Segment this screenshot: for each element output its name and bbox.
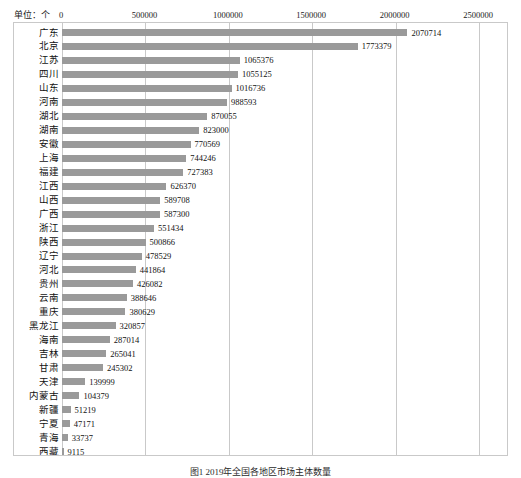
category-label: 山东 [14, 81, 59, 95]
bar[interactable] [62, 406, 71, 413]
bar-row[interactable]: 云南388646 [14, 291, 507, 305]
bar-value-label: 1065376 [244, 53, 274, 67]
category-label: 安徽 [14, 137, 59, 151]
bar-row[interactable]: 新疆51219 [14, 403, 507, 417]
category-label: 吉林 [14, 347, 59, 361]
category-label: 西藏 [14, 445, 59, 456]
bar-row[interactable]: 内蒙古104379 [14, 389, 507, 403]
bar-row[interactable]: 陕西500866 [14, 235, 507, 249]
bar[interactable] [62, 294, 127, 301]
bar-track: 245302 [62, 361, 507, 375]
bar-row[interactable]: 上海744246 [14, 151, 507, 165]
bar-row[interactable]: 贵州426082 [14, 277, 507, 291]
x-tick-label: 0 [59, 9, 63, 22]
x-tick-label: 2500000 [463, 9, 493, 22]
bar-row[interactable]: 黑龙江320857 [14, 319, 507, 333]
category-label: 云南 [14, 291, 59, 305]
bar-track: 770569 [62, 137, 507, 151]
bar-track: 500866 [62, 235, 507, 249]
x-axis-labels: 单位：个 05000001000000150000020000002500000 [0, 9, 521, 22]
bar-row[interactable]: 江苏1065376 [14, 53, 507, 67]
bar-row[interactable]: 天津139999 [14, 375, 507, 389]
bar-row[interactable]: 浙江551434 [14, 221, 507, 235]
bar-value-label: 1773379 [362, 39, 392, 53]
bar[interactable] [62, 155, 186, 162]
bar-value-label: 589708 [164, 193, 190, 207]
bar-value-label: 727383 [187, 165, 213, 179]
bar[interactable] [62, 169, 183, 176]
bar-row[interactable]: 宁夏47171 [14, 417, 507, 431]
bar[interactable] [62, 225, 154, 232]
bar[interactable] [62, 336, 110, 343]
bar[interactable] [62, 141, 191, 148]
bar-track: 870055 [62, 109, 507, 123]
bar-value-label: 2070714 [411, 26, 441, 40]
bar-track: 988593 [62, 95, 507, 109]
bar-row[interactable]: 西藏9115 [14, 445, 507, 456]
bar[interactable] [62, 420, 70, 427]
bar-row[interactable]: 海南287014 [14, 333, 507, 347]
plot-area: 广东2070714北京1773379江苏1065376四川1055125山东10… [13, 22, 508, 456]
bar-track: 9115 [62, 445, 507, 456]
bar-value-label: 551434 [158, 221, 184, 235]
bar-value-label: 47171 [74, 417, 95, 431]
bar[interactable] [62, 43, 358, 50]
bar[interactable] [62, 448, 64, 455]
bar-track: 426082 [62, 277, 507, 291]
bar-row[interactable]: 河南988593 [14, 95, 507, 109]
bar[interactable] [62, 85, 232, 92]
bar-row[interactable]: 广西587300 [14, 207, 507, 221]
bar-row[interactable]: 北京1773379 [14, 39, 507, 53]
bar-row[interactable]: 重庆380629 [14, 305, 507, 319]
category-label: 内蒙古 [14, 389, 59, 403]
bar-row[interactable]: 甘肃245302 [14, 361, 507, 375]
x-tick-label: 500000 [132, 9, 158, 22]
bar-row[interactable]: 四川1055125 [14, 67, 507, 81]
bar-track: 727383 [62, 165, 507, 179]
bar-row[interactable]: 山西589708 [14, 193, 507, 207]
category-label: 江西 [14, 179, 59, 193]
bar[interactable] [62, 29, 407, 36]
bar-row[interactable]: 湖南823000 [14, 123, 507, 137]
bar-track: 626370 [62, 179, 507, 193]
category-label: 重庆 [14, 305, 59, 319]
bar[interactable] [62, 183, 166, 190]
category-label: 黑龙江 [14, 319, 59, 333]
bar-track: 1016736 [62, 81, 507, 95]
bar-track: 587300 [62, 207, 507, 221]
bar-track: 441864 [62, 263, 507, 277]
bar-row[interactable]: 辽宁478529 [14, 249, 507, 263]
bar[interactable] [62, 434, 68, 441]
bar-track: 2070714 [62, 26, 507, 40]
category-label: 贵州 [14, 277, 59, 291]
bar-value-label: 33737 [72, 431, 93, 445]
bar[interactable] [62, 378, 85, 385]
category-label: 青海 [14, 431, 59, 445]
bar[interactable] [62, 266, 136, 273]
bar[interactable] [62, 57, 240, 64]
bar-row[interactable]: 安徽770569 [14, 137, 507, 151]
bar[interactable] [62, 392, 79, 399]
bar[interactable] [62, 211, 160, 218]
bar[interactable] [62, 239, 146, 246]
bar-row[interactable]: 江西626370 [14, 179, 507, 193]
bar-value-label: 1016736 [236, 81, 266, 95]
bar[interactable] [62, 308, 125, 315]
bar-row[interactable]: 吉林265041 [14, 347, 507, 361]
bar-row[interactable]: 山东1016736 [14, 81, 507, 95]
bar[interactable] [62, 197, 160, 204]
bar[interactable] [62, 350, 106, 357]
bar-row[interactable]: 河北441864 [14, 263, 507, 277]
bar-row[interactable]: 湖北870055 [14, 109, 507, 123]
bar-row[interactable]: 福建727383 [14, 165, 507, 179]
bar-row[interactable]: 广东2070714 [14, 26, 507, 40]
bar[interactable] [62, 253, 142, 260]
bar[interactable] [62, 99, 227, 106]
bar[interactable] [62, 322, 116, 329]
bar[interactable] [62, 113, 207, 120]
bar[interactable] [62, 127, 199, 134]
bar[interactable] [62, 280, 133, 287]
bar[interactable] [62, 364, 103, 371]
bar[interactable] [62, 71, 238, 78]
bar-row[interactable]: 青海33737 [14, 431, 507, 445]
